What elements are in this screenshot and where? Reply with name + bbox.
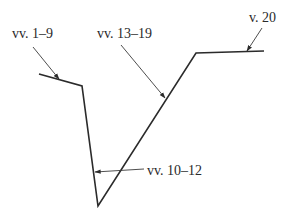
label-vv-13-19: vv. 13–19 bbox=[97, 26, 165, 98]
arrow-icon bbox=[33, 47, 59, 79]
arrow-icon bbox=[247, 28, 262, 51]
arrow-icon bbox=[121, 45, 165, 98]
label-vv-1-9: vv. 1–9 bbox=[12, 26, 59, 79]
label-text-vv-1-9: vv. 1–9 bbox=[12, 26, 53, 41]
label-v-20: v. 20 bbox=[247, 10, 276, 51]
plot-line bbox=[39, 51, 264, 206]
label-text-vv-10-12: vv. 10–12 bbox=[147, 163, 202, 178]
plot-diagram: vv. 1–9 vv. 13–19 v. 20 vv. 10–12 bbox=[0, 0, 292, 215]
label-vv-10-12: vv. 10–12 bbox=[95, 163, 202, 178]
label-text-v-20: v. 20 bbox=[249, 10, 276, 25]
label-text-vv-13-19: vv. 13–19 bbox=[97, 26, 152, 41]
labels-group: vv. 1–9 vv. 13–19 v. 20 vv. 10–12 bbox=[12, 10, 276, 178]
